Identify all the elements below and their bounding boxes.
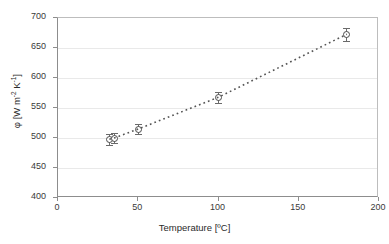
plot-area [57, 17, 378, 197]
x-tick-label: 0 [37, 203, 77, 212]
x-tick-mark [137, 197, 138, 201]
y-tick-label: 400 [0, 192, 46, 201]
y-tick-label: 650 [0, 42, 46, 51]
y-tick-mark [53, 17, 57, 18]
y-tick-label: 450 [0, 162, 46, 171]
x-tick-label: 150 [278, 203, 318, 212]
y-axis-title-mid: K [11, 82, 22, 91]
y-tick-mark [53, 167, 57, 168]
x-tick-mark [57, 197, 58, 201]
y-axis-title-open: [W m [11, 97, 22, 122]
y-tick-mark [53, 137, 57, 138]
y-tick-label: 550 [0, 102, 46, 111]
x-tick-mark [298, 197, 299, 201]
y-tick-mark [53, 47, 57, 48]
x-tick-label: 50 [117, 203, 157, 212]
chart-figure: 400450500550600650700 050100150200 Tempe… [0, 0, 389, 244]
y-axis-title-symbol: φ [11, 122, 22, 128]
x-tick-label: 100 [198, 203, 238, 212]
y-tick-mark [53, 107, 57, 108]
y-axis-title: φ [W m-2 K-1] [10, 41, 22, 161]
trendline [58, 18, 379, 198]
y-tick-label: 700 [0, 12, 46, 21]
x-tick-mark [378, 197, 379, 201]
x-axis-title: Temperature [ºC] [0, 222, 389, 233]
y-axis-title-close: ] [11, 74, 22, 77]
x-tick-label: 200 [358, 203, 389, 212]
y-tick-label: 600 [0, 72, 46, 81]
y-axis-title-exponent-1: -2 [10, 91, 17, 97]
x-tick-mark [218, 197, 219, 201]
y-tick-label: 500 [0, 132, 46, 141]
y-tick-mark [53, 77, 57, 78]
y-axis-title-exponent-2: -1 [10, 77, 17, 83]
